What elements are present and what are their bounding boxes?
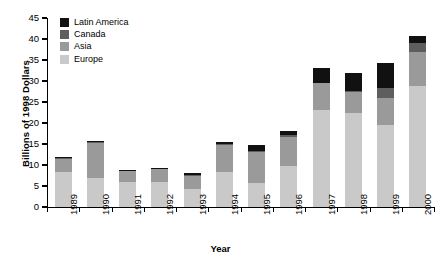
x-axis-tick — [434, 207, 435, 212]
x-axis-tick-label: 1997 — [326, 194, 337, 215]
y-axis-tick — [42, 101, 47, 102]
bar-segment-asia — [345, 92, 362, 113]
bar-segment-latin-america — [345, 73, 362, 90]
bar-segment-canada — [151, 168, 168, 169]
legend-swatch-icon — [60, 30, 69, 39]
bar-segment-asia — [409, 52, 426, 87]
bar-segment-canada — [280, 135, 297, 137]
bar-segment-latin-america — [55, 157, 72, 158]
bar-segment-europe — [345, 113, 362, 208]
legend-label: Asia — [74, 42, 92, 51]
x-axis-tick — [337, 207, 338, 212]
x-axis-tick-label: 1991 — [132, 194, 143, 215]
legend-swatch-icon — [60, 18, 69, 27]
x-axis-tick-label: 1995 — [261, 194, 272, 215]
bar-segment-latin-america — [216, 142, 233, 144]
bar-segment-asia — [151, 169, 168, 182]
y-axis-tick — [42, 80, 47, 81]
stacked-bar-chart: Billions of 1998 Dollars 051015202530354… — [0, 0, 441, 267]
x-axis-tick-label: 1996 — [293, 194, 304, 215]
x-axis-tick-label: 1992 — [164, 194, 175, 215]
x-axis-tick — [176, 207, 177, 212]
x-axis-tick — [305, 207, 306, 212]
bar-segment-canada — [184, 175, 201, 176]
y-axis-tick-label: 15 — [28, 139, 39, 149]
bar-segment-latin-america — [313, 68, 330, 83]
x-axis-tick — [370, 207, 371, 212]
y-axis-tick-label: 30 — [28, 76, 39, 86]
legend-label: Europe — [74, 55, 103, 64]
bar-segment-canada — [119, 170, 136, 171]
bar-segment-latin-america — [377, 63, 394, 88]
y-axis-tick — [42, 17, 47, 18]
legend-item-latin-america: Latin America — [60, 16, 129, 28]
y-axis-line — [47, 18, 48, 207]
x-axis-tick-label: 1999 — [390, 194, 401, 215]
bar-segment-canada — [87, 142, 104, 143]
x-axis-tick-label: 1989 — [68, 194, 79, 215]
legend-item-canada: Canada — [60, 28, 129, 40]
bar-segment-asia — [313, 83, 330, 110]
bar-segment-latin-america — [280, 131, 297, 136]
x-axis-tick — [79, 207, 80, 212]
bar-segment-asia — [184, 176, 201, 189]
bar-1998 — [345, 73, 362, 207]
y-axis-tick-label: 35 — [28, 55, 39, 65]
x-axis-tick — [47, 207, 48, 212]
bar-segment-latin-america — [87, 141, 104, 142]
bar-segment-asia — [119, 171, 136, 182]
legend-swatch-icon — [60, 55, 69, 64]
chart-legend: Latin AmericaCanadaAsiaEurope — [60, 16, 129, 66]
x-axis-tick-label: 1993 — [197, 194, 208, 215]
bar-segment-asia — [377, 98, 394, 125]
x-axis-tick-label: 1994 — [229, 194, 240, 215]
y-axis-tick — [42, 143, 47, 144]
y-axis-tick-label: 5 — [34, 181, 39, 191]
x-axis-tick — [112, 207, 113, 212]
y-axis-tick — [42, 122, 47, 123]
bar-segment-europe — [409, 86, 426, 207]
x-axis-title: Year — [0, 243, 441, 254]
legend-label: Latin America — [74, 18, 129, 27]
y-axis-tick-label: 40 — [28, 34, 39, 44]
bar-segment-canada — [55, 158, 72, 159]
y-axis-tick-label: 0 — [34, 202, 39, 212]
y-axis-tick-label: 45 — [28, 13, 39, 23]
bar-segment-latin-america — [409, 36, 426, 43]
bar-segment-europe — [313, 110, 330, 207]
y-axis-tick-label: 25 — [28, 97, 39, 107]
x-axis-tick — [273, 207, 274, 212]
bar-segment-canada — [345, 91, 362, 92]
legend-label: Canada — [74, 30, 106, 39]
y-axis-tick — [42, 38, 47, 39]
bar-segment-asia — [248, 152, 265, 183]
x-axis-tick-label: 1998 — [358, 194, 369, 215]
legend-item-europe: Europe — [60, 53, 129, 65]
y-axis-tick — [42, 185, 47, 186]
x-axis-tick — [144, 207, 145, 212]
bar-segment-canada — [377, 88, 394, 98]
y-axis-tick — [42, 164, 47, 165]
legend-item-asia: Asia — [60, 41, 129, 53]
y-axis-tick-label: 20 — [28, 118, 39, 128]
bar-segment-asia — [55, 159, 72, 172]
x-axis-tick-label: 2000 — [422, 194, 433, 215]
bar-1997 — [313, 68, 330, 207]
bar-segment-canada — [248, 151, 265, 153]
x-axis-tick — [241, 207, 242, 212]
y-axis-tick — [42, 59, 47, 60]
y-axis-tick-label: 10 — [28, 160, 39, 170]
bar-segment-asia — [280, 137, 297, 166]
bar-segment-canada — [216, 144, 233, 145]
legend-swatch-icon — [60, 42, 69, 51]
bar-2000 — [409, 36, 426, 207]
bar-segment-latin-america — [184, 173, 201, 175]
bar-segment-latin-america — [248, 145, 265, 150]
bar-segment-asia — [87, 143, 104, 178]
bar-1999 — [377, 63, 394, 207]
x-axis-tick-label: 1990 — [100, 194, 111, 215]
bar-segment-canada — [409, 43, 426, 51]
x-axis-tick — [208, 207, 209, 212]
x-axis-tick — [402, 207, 403, 212]
bar-segment-asia — [216, 145, 233, 172]
